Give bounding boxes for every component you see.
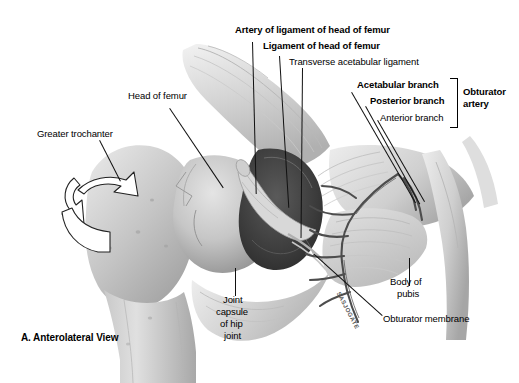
label-joint-capsule-line2: capsule — [216, 306, 248, 317]
joint-capsule — [192, 272, 330, 341]
obturator-artery-bracket — [450, 78, 458, 128]
label-joint-capsule-line4: joint — [224, 330, 241, 341]
label-obturator-membrane: Obturator membrane — [383, 313, 469, 324]
label-obturator-artery-line1: Obturator — [463, 86, 506, 97]
label-greater-trochanter: Greater trochanter — [37, 128, 113, 139]
hip-joint-illustration — [0, 0, 519, 383]
figure-caption: A. Anterolateral View — [21, 332, 118, 343]
label-obturator-artery-line2: artery — [463, 98, 489, 109]
label-ligament-of-head-of-femur: Ligament of head of femur — [263, 40, 380, 51]
label-joint-capsule-line1: Joint — [223, 294, 243, 305]
label-anterior-branch: Anterior branch — [380, 112, 443, 123]
acetabular-fossa — [239, 149, 323, 270]
label-head-of-femur: Head of femur — [128, 90, 187, 101]
label-body-of-pubis-line2: pubis — [397, 288, 419, 299]
label-transverse-acetabular-ligament: Transverse acetabular ligament — [289, 56, 419, 67]
label-artery-of-ligament-of-head-of-femur: Artery of ligament of head of femur — [235, 24, 390, 35]
anatomy-figure: Artery of ligament of head of femur Liga… — [0, 0, 519, 383]
leader-joint-capsule — [235, 268, 236, 296]
label-posterior-branch: Posterior branch — [370, 95, 444, 106]
label-joint-capsule-line3: of hip — [220, 318, 243, 329]
label-body-of-pubis-line1: Body of — [390, 276, 422, 287]
label-acetabular-branch: Acetabular branch — [357, 79, 439, 90]
